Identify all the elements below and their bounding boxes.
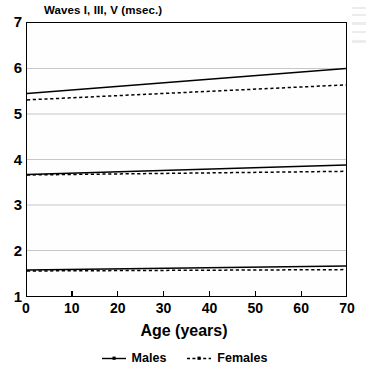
x-axis-tick-label: 10 <box>64 300 80 316</box>
x-axis-tick-mark <box>255 291 256 297</box>
y-axis-tick-label: 4 <box>2 151 22 168</box>
x-axis-tick-mark <box>301 291 302 297</box>
page-bleed-artifact <box>352 4 366 52</box>
x-axis-tick-mark <box>117 291 118 297</box>
x-axis-tick-label: 70 <box>339 300 355 316</box>
legend-label: Females <box>217 351 267 365</box>
chart-legend: MalesFemales <box>0 351 368 365</box>
y-axis-tick-label: 3 <box>2 196 22 213</box>
series-line-males-wave-i <box>27 266 346 270</box>
data-series-lines <box>27 23 346 296</box>
chart-title: Waves I, III, V (msec.) <box>44 4 162 16</box>
plot-area <box>26 22 347 297</box>
series-line-females-wave-v <box>27 85 346 100</box>
x-axis-tick-label: 30 <box>156 300 172 316</box>
series-line-males-wave-v <box>27 69 346 94</box>
legend-item-females: Females <box>186 351 267 365</box>
x-axis-tick-label: 40 <box>202 300 218 316</box>
chart-figure: Waves I, III, V (msec.) 1234567 01020304… <box>0 0 368 373</box>
y-axis-tick-label: 2 <box>2 242 22 259</box>
legend-swatch-dashed-line-icon <box>186 354 212 363</box>
x-axis-tick-mark <box>71 291 72 297</box>
y-axis-tick-label: 6 <box>2 59 22 76</box>
x-axis-tick-mark <box>209 291 210 297</box>
x-axis-tick-mark <box>163 291 164 297</box>
legend-item-males: Males <box>101 351 167 365</box>
x-axis-tick-label: 0 <box>22 300 30 316</box>
x-axis-tick-label: 20 <box>110 300 126 316</box>
legend-label: Males <box>132 351 167 365</box>
y-axis-tick-label: 7 <box>2 13 22 30</box>
x-axis-title: Age (years) <box>0 322 368 340</box>
y-axis-tick-label: 1 <box>2 288 22 305</box>
x-axis-tick-label: 50 <box>247 300 263 316</box>
x-axis-tick-label: 60 <box>293 300 309 316</box>
legend-swatch-solid-line-icon <box>101 354 127 363</box>
y-axis-tick-label: 5 <box>2 105 22 122</box>
